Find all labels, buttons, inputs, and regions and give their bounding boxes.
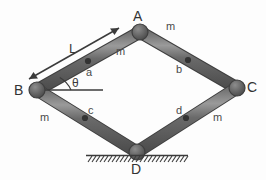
com-label-a: a <box>86 67 92 78</box>
mass-label-bar-d: m <box>213 112 222 123</box>
com-label-c: c <box>88 105 94 116</box>
mass-label-bar-a: m <box>116 46 125 57</box>
bar-c-BD <box>37 90 137 152</box>
joint-C <box>229 80 245 96</box>
com-dot-a <box>85 58 91 64</box>
com-dot-d <box>183 115 189 121</box>
vertex-label-C: C <box>247 80 257 94</box>
com-label-b: b <box>176 64 182 75</box>
joint-B <box>29 82 45 98</box>
mass-label-bar-c: m <box>40 112 49 123</box>
angle-label-theta: θ <box>72 77 79 89</box>
mass-label-bar-b: m <box>166 21 175 32</box>
vertex-label-B: B <box>14 83 23 97</box>
vertex-label-A: A <box>133 9 142 23</box>
bars-layer <box>37 32 237 152</box>
com-dot-b <box>185 57 191 63</box>
linkage-diagram-svg <box>0 0 266 180</box>
com-label-d: d <box>176 105 182 116</box>
joint-A <box>132 24 148 40</box>
vertex-label-D: D <box>131 162 141 176</box>
length-label-L: L <box>69 42 76 55</box>
center-of-mass-dots-layer <box>82 57 191 121</box>
joints-layer <box>29 24 245 160</box>
figure-canvas: A B C D m m m m a b c d L θ <box>0 0 266 180</box>
